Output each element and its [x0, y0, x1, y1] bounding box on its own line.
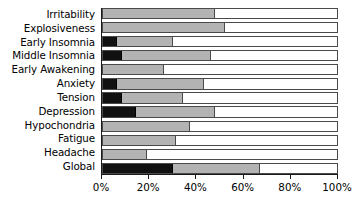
category-label-anxiety: Anxiety [0, 77, 99, 91]
x-tick [101, 175, 102, 179]
x-tick-label: 60% [231, 181, 254, 193]
bar-segment-none [183, 93, 337, 102]
x-tick [195, 175, 196, 179]
bar-segment-none [176, 136, 337, 145]
bar-segment-none [215, 107, 337, 116]
x-tick-label: 0% [93, 181, 109, 193]
bar-row [102, 36, 338, 47]
x-tick [148, 175, 149, 179]
x-tick-label: 20% [137, 181, 160, 193]
x-tick-label: 80% [278, 181, 301, 193]
category-axis-labels: IrritabilityExplosivenessEarly InsomniaM… [0, 8, 99, 174]
bar-segment-none [164, 65, 337, 74]
category-label-middle-insomnia: Middle Insomnia [0, 49, 99, 63]
bar-row [102, 64, 338, 75]
x-tick-label: 100% [322, 181, 351, 193]
bar-row [102, 92, 338, 103]
x-axis-ticks [101, 175, 337, 179]
bar-segment-none [260, 164, 337, 173]
bar-segment-moderate [103, 23, 225, 32]
category-label-hypochondria: Hypochondria [0, 119, 99, 133]
category-label-headache: Headache [0, 146, 99, 160]
bar-segment-none [147, 150, 337, 159]
x-axis-tick-labels: 0%20%40%60%80%100% [101, 181, 337, 197]
bar-row [102, 106, 338, 117]
category-label-global: Global [0, 160, 99, 174]
x-tick-label: 40% [184, 181, 207, 193]
bar-segment-moderate [173, 164, 260, 173]
bar-rows [102, 8, 338, 174]
category-label-irritability: Irritability [0, 8, 99, 22]
bar-row [102, 121, 338, 132]
bar-segment-none [190, 122, 337, 131]
bar-segment-severe [103, 79, 117, 88]
category-label-early-awakening: Early Awakening [0, 63, 99, 77]
bar-row [102, 78, 338, 89]
bar-segment-severe [103, 164, 173, 173]
x-tick [243, 175, 244, 179]
bar-segment-none [204, 79, 337, 88]
bar-row [102, 149, 338, 160]
bar-segment-none [211, 51, 337, 60]
bar-segment-moderate [103, 150, 147, 159]
bar-segment-moderate [136, 107, 216, 116]
x-tick [337, 175, 338, 179]
bar-segment-moderate [103, 136, 176, 145]
category-label-explosiveness: Explosiveness [0, 22, 99, 36]
bar-segment-moderate [103, 9, 215, 18]
bar-segment-moderate [103, 122, 190, 131]
bar-segment-none [225, 23, 337, 32]
x-tick [290, 175, 291, 179]
bar-segment-moderate [122, 93, 183, 102]
bar-segment-moderate [103, 65, 164, 74]
bar-segment-moderate [117, 79, 204, 88]
bar-segment-moderate [117, 37, 173, 46]
bar-row [102, 135, 338, 146]
plot-area [101, 8, 338, 174]
bar-segment-moderate [122, 51, 211, 60]
bar-segment-none [173, 37, 337, 46]
category-label-depression: Depression [0, 105, 99, 119]
bar-row [102, 163, 338, 174]
bar-row [102, 22, 338, 33]
stacked-bar-chart: IrritabilityExplosivenessEarly InsomniaM… [0, 0, 358, 213]
bar-segment-severe [103, 107, 136, 116]
category-label-fatigue: Fatigue [0, 132, 99, 146]
bar-segment-severe [103, 51, 122, 60]
category-label-early-insomnia: Early Insomnia [0, 36, 99, 50]
bar-segment-severe [103, 37, 117, 46]
bar-row [102, 50, 338, 61]
bar-row [102, 8, 338, 19]
bar-segment-none [215, 9, 337, 18]
category-label-tension: Tension [0, 91, 99, 105]
bar-segment-severe [103, 93, 122, 102]
